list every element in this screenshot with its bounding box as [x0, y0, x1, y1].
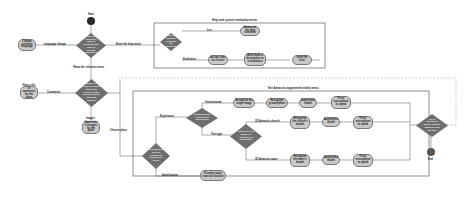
info-decision: Informational or text-type experience: [186, 108, 218, 128]
help-decision: Help or want to evaluate the system?: [160, 33, 182, 51]
start-label: Start: [88, 13, 94, 16]
change-language-node: Change previous language: [18, 39, 36, 51]
experience-label: Experience: [160, 115, 174, 118]
church-node-3: Press microphone to speak: [353, 116, 373, 129]
selection-menu-label: Show the selection menu: [73, 66, 104, 69]
help-list-label: List: [207, 29, 212, 32]
start-node: [87, 17, 95, 25]
final-decision: Go to selection menu, explore again or e…: [416, 114, 448, 137]
informational-node-4: Press microphone to speak: [331, 96, 351, 109]
informational-node-3: Augmented model: [299, 98, 317, 108]
activity-diagram: Start Does the character have a problem …: [0, 0, 470, 206]
selection-decision: Choose if you want to learn about the ch…: [75, 79, 108, 107]
images-node: Have a list of images for the place: [82, 121, 100, 134]
antarctic-tower-label: 3D Antarctic tower: [255, 158, 278, 161]
main-decision: Does the character have a problem with h…: [76, 33, 106, 58]
end-node: [427, 148, 435, 156]
language-change-label: Language change: [44, 43, 66, 46]
help-frame-title: Help and system evaluation menu: [212, 18, 257, 22]
text-decision: Which 3D text model of Antarctic do you …: [230, 124, 262, 149]
images-label: Images: [86, 117, 95, 120]
end-label: End: [428, 158, 433, 161]
tower-node-1: Recognize the tower's facade: [290, 154, 310, 167]
informational-label: Informational: [205, 101, 221, 104]
ar-decision: Choose the type of element to identify t…: [142, 143, 170, 169]
antarctic-church-label: 3D Antarctic church: [255, 120, 280, 123]
ar-frame-title: See Antarctic augmented reality menu: [268, 86, 319, 90]
comments-node: Have a list of comments for the place: [20, 86, 38, 99]
identification-node: Visualize place map and location: [200, 170, 226, 181]
help-eval-node-1: Assign stars as a score: [208, 55, 228, 65]
text-type-label: Text type: [211, 133, 222, 136]
church-node-1: Recognize the church's facade: [290, 116, 310, 129]
help-list-node: Access to the help searched: [240, 26, 260, 36]
informational-node-2: Recognize ground plane: [266, 98, 288, 108]
tower-node-2: Augmented model: [322, 155, 340, 165]
comments-label: Comments: [47, 91, 60, 94]
tower-node-3: Press microphone to speak: [353, 154, 373, 167]
chosen-place-label: Chosen place: [110, 129, 127, 132]
church-node-2: Augmented model: [322, 117, 340, 127]
informational-node-1: Recognize the target image: [233, 98, 255, 108]
help-eval-node-3: Send the form: [292, 55, 312, 65]
help-eval-label: Evaluation: [183, 58, 196, 61]
identification-label: Identification: [162, 174, 178, 177]
help-eval-node-2: Write down a description as a evaluation: [244, 53, 266, 66]
help-menu-label: Enter the help menu: [116, 43, 141, 46]
